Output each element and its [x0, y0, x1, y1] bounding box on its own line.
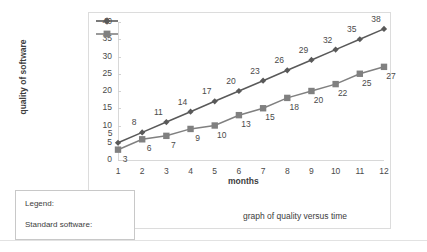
data-point-label: 3	[116, 154, 134, 164]
square-data-point	[115, 146, 121, 152]
data-point-label: 25	[358, 78, 376, 88]
data-point-label: 26	[270, 55, 288, 65]
square-data-point	[381, 64, 387, 70]
diamond-data-point	[236, 88, 242, 94]
data-point-label: 8	[125, 117, 143, 127]
chart-caption: graph of quality versus time	[200, 211, 390, 221]
diamond-data-point	[163, 119, 169, 125]
data-point-label: 22	[334, 88, 352, 98]
diamond-data-point	[139, 129, 145, 135]
square-data-point	[308, 88, 314, 94]
data-point-label: 11	[149, 107, 167, 117]
square-data-point	[187, 126, 193, 132]
square-marker-icon	[104, 31, 111, 38]
data-point-label: 20	[309, 95, 327, 105]
data-point-label: 5	[101, 128, 119, 138]
data-point-label: 14	[174, 97, 192, 107]
data-point-label: 38	[367, 14, 385, 24]
data-point-label: 7	[164, 140, 182, 150]
bottom-divider	[0, 240, 427, 241]
data-point-label: 27	[382, 71, 400, 81]
data-point-label: 15	[261, 112, 279, 122]
square-data-point	[284, 95, 290, 101]
square-data-point	[332, 81, 338, 87]
diamond-data-point	[381, 26, 387, 32]
square-data-point	[236, 112, 242, 118]
data-point-label: 20	[222, 76, 240, 86]
square-data-point	[357, 71, 363, 77]
diamond-data-point	[212, 98, 218, 104]
square-data-point	[212, 122, 218, 128]
legend-standard-software-label: Standard software:	[25, 220, 92, 229]
legend-marker-swatches	[96, 16, 118, 42]
data-point-label: 32	[319, 35, 337, 45]
data-point-label: 18	[285, 102, 303, 112]
data-point-label: 23	[246, 66, 264, 76]
data-point-label: 35	[343, 24, 361, 34]
data-point-label: 9	[189, 133, 207, 143]
diamond-data-point	[187, 109, 193, 115]
square-data-point	[163, 133, 169, 139]
y-axis-title: quality of software	[18, 7, 28, 147]
data-point-label: 10	[213, 130, 231, 140]
square-data-point	[260, 105, 266, 111]
diamond-data-point	[357, 36, 363, 42]
data-point-label: 6	[140, 143, 158, 153]
chart-figure: quality of software months 0510152025303…	[0, 0, 427, 252]
diamond-marker-icon	[104, 17, 111, 25]
square-data-point	[139, 136, 145, 142]
diamond-data-point	[284, 67, 290, 73]
legend-title: Legend:	[25, 199, 54, 208]
diamond-data-point	[115, 140, 121, 146]
diamond-data-point	[333, 47, 339, 53]
data-point-label: 17	[198, 86, 216, 96]
diamond-data-point	[308, 57, 314, 63]
data-point-label: 29	[294, 45, 312, 55]
legend-box: Legend: Standard software:	[15, 190, 135, 240]
diamond-data-point	[260, 78, 266, 84]
data-point-label: 13	[237, 119, 255, 129]
